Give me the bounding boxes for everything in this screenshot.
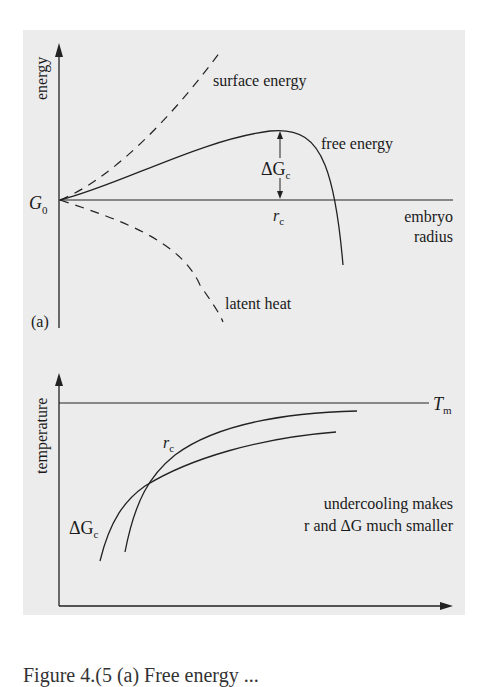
free-energy-curve bbox=[60, 131, 343, 265]
free-energy-label: free energy bbox=[321, 135, 393, 153]
latent-heat-curve bbox=[60, 200, 223, 322]
delta-g-curve bbox=[100, 432, 336, 561]
arrow-up-icon bbox=[277, 131, 283, 139]
panel-b-temperature-diagram: temperature Tm rc ΔGc undercooling makes… bbox=[23, 340, 465, 615]
x-axis-arrow-icon bbox=[440, 602, 453, 610]
tm-label: Tm bbox=[433, 394, 452, 416]
origin-label: G0 bbox=[29, 193, 48, 216]
delta-g-c-label: ΔGc bbox=[261, 159, 291, 181]
panel-a-energy-diagram: energy G0 surface energy free energy lat… bbox=[23, 30, 465, 340]
temperature-diagram-svg: temperature Tm rc ΔGc undercooling makes… bbox=[23, 340, 465, 615]
figure-caption: Figure 4.(5 (a) Free energy ... bbox=[23, 664, 259, 687]
delta-g-curve-label: ΔGc bbox=[69, 518, 99, 540]
rc-curve-label: rc bbox=[163, 434, 174, 454]
energy-diagram-svg: energy G0 surface energy free energy lat… bbox=[23, 30, 465, 340]
y-axis-arrow-icon bbox=[55, 373, 63, 386]
note-line1: undercooling makes bbox=[324, 495, 453, 513]
note-line2: r and ΔG much smaller bbox=[304, 517, 454, 534]
x-axis-label-line1: embryo bbox=[404, 208, 453, 226]
y-axis-label: energy bbox=[33, 57, 51, 100]
x-axis-label-line2: radius bbox=[414, 228, 453, 245]
y-axis-label: temperature bbox=[33, 398, 51, 474]
panel-a-label: (a) bbox=[31, 313, 49, 331]
latent-heat-label: latent heat bbox=[225, 295, 292, 312]
surface-energy-label: surface energy bbox=[213, 72, 306, 90]
surface-energy-curve bbox=[60, 52, 220, 200]
rc-label: rc bbox=[273, 207, 284, 227]
arrow-down-icon bbox=[277, 191, 283, 199]
y-axis-arrow-icon bbox=[55, 43, 63, 57]
